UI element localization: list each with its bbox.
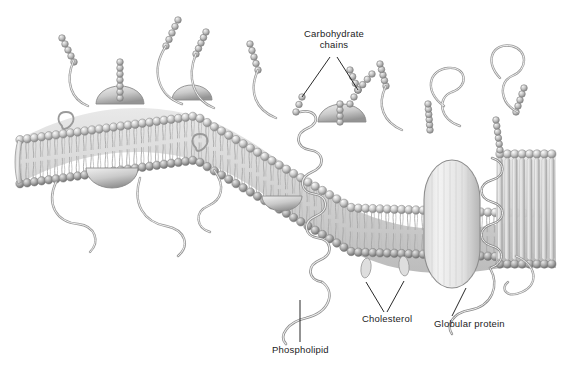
carbohydrate-bead (253, 60, 260, 67)
carbohydrate-bead (247, 41, 254, 48)
carbohydrate-bead (172, 23, 179, 30)
carbohydrate-bead (169, 30, 176, 37)
carbohydrate-bead (517, 97, 524, 104)
carbohydrate-bead (515, 103, 522, 110)
carbohydrate-bead (496, 141, 503, 148)
carbohydrate-bead (251, 54, 258, 61)
carbohydrate-bead (351, 94, 358, 101)
carbohydrate-bead (117, 59, 124, 66)
carbohydrate-bead (337, 107, 344, 114)
label-carbohydrate-chains: Carbohydrate chains (287, 28, 381, 50)
label-carbohydrate-chains-line2: chains (320, 39, 349, 50)
carbohydrate-bead (349, 73, 356, 80)
figure-canvas: Carbohydrate chains Cholesterol Phosphol… (0, 0, 563, 372)
carbohydrate-bead (62, 41, 69, 48)
carbohydrate-bead (117, 89, 124, 96)
label-carbohydrate-chains-line1: Carbohydrate (304, 28, 364, 39)
carbohydrate-bead (337, 101, 344, 108)
carbohydrate-bead (497, 147, 504, 154)
carbohydrate-bead (364, 76, 371, 83)
carbohydrate-bead (347, 101, 354, 108)
carbohydrate-bead (203, 29, 210, 36)
carbohydrate-bead (369, 71, 376, 78)
carbohydrate-bead (293, 109, 300, 116)
carbohydrate-bead (117, 71, 124, 78)
label-cholesterol: Cholesterol (362, 313, 412, 324)
carbohydrate-bead (495, 135, 502, 142)
label-globular-protein: Globular protein (434, 318, 505, 329)
carbohydrate-bead (377, 61, 384, 68)
membrane-diagram (0, 0, 563, 372)
carbohydrate-bead (296, 101, 303, 108)
label-phospholipid: Phospholipid (272, 344, 329, 355)
globular-protein-shape (424, 160, 480, 288)
carbohydrate-bead (425, 101, 432, 108)
carbohydrate-bead (337, 113, 344, 120)
carbohydrate-bead (519, 91, 526, 98)
carbohydrate-bead (117, 65, 124, 72)
carbohydrate-bead (117, 77, 124, 84)
carbohydrate-bead (117, 83, 124, 90)
carbohydrate-bead (337, 119, 344, 126)
phospholipid-head (548, 150, 556, 158)
membrane-right-face (496, 150, 556, 268)
carbohydrate-bead (521, 85, 528, 92)
carbohydrate-bead (347, 67, 354, 74)
carbohydrate-bead (68, 53, 75, 60)
carbohydrate-bead (166, 36, 173, 43)
carbohydrate-bead (249, 47, 256, 54)
phospholipid-head (548, 260, 556, 268)
carbohydrate-bead (59, 35, 66, 42)
carbohydrate-bead (65, 47, 72, 54)
carbohydrate-bead (175, 17, 182, 24)
carbohydrate-bead (494, 129, 501, 136)
carbohydrate-bead (493, 117, 500, 124)
carbohydrate-bead (117, 95, 124, 102)
carbohydrate-bead (494, 123, 501, 130)
carbohydrate-bead (359, 81, 366, 88)
